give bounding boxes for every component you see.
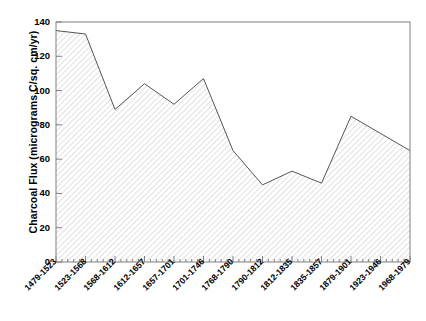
x-tick-label: 1479-1523 <box>23 258 58 293</box>
x-axis-tick-labels: 1479-15231523-15681568-16121612-16571657… <box>0 0 426 321</box>
charcoal-flux-area-chart: Charcoal Flux (micrograms C/sq. cm/yr) 0… <box>0 0 426 321</box>
